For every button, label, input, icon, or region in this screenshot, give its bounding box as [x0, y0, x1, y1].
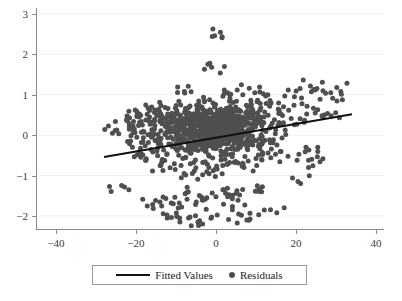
- legend-line-swatch-icon: [116, 274, 150, 276]
- y-axis-line: [36, 8, 37, 230]
- x-tick-mark: [296, 230, 297, 234]
- x-tick-label: −40: [36, 238, 76, 249]
- plot-area: [36, 8, 384, 230]
- y-tick-mark: [32, 14, 36, 15]
- y-tick-label: 3: [0, 9, 28, 20]
- y-tick-label: 1: [0, 90, 28, 101]
- caption-sliver: [0, 295, 402, 301]
- x-tick-label: 20: [276, 238, 316, 249]
- y-tick-mark: [32, 54, 36, 55]
- legend-dot-swatch-icon: [229, 272, 235, 278]
- scatter-plot-canvas: [36, 8, 384, 230]
- x-tick-label: 0: [196, 238, 236, 249]
- y-tick-mark: [32, 176, 36, 177]
- y-tick-label: 0: [0, 130, 28, 141]
- legend-label-residuals: Residuals: [240, 270, 283, 281]
- x-tick-mark: [136, 230, 137, 234]
- y-tick-mark: [32, 95, 36, 96]
- legend-entry-fitted-values: Fitted Values: [116, 270, 213, 281]
- legend-entry-residuals: Residuals: [229, 270, 283, 281]
- y-tick-label: −2: [0, 211, 28, 222]
- chart-page: −2−10123 −40−2002040 Fitted Values Resid…: [0, 0, 402, 301]
- x-tick-mark: [216, 230, 217, 234]
- x-tick-label: 40: [356, 238, 396, 249]
- chart-legend: Fitted Values Residuals: [92, 265, 307, 285]
- x-axis-line: [36, 229, 384, 230]
- x-tick-mark: [376, 230, 377, 234]
- y-tick-label: −1: [0, 171, 28, 182]
- y-tick-label: 2: [0, 49, 28, 60]
- y-tick-mark: [32, 216, 36, 217]
- legend-label-fitted-values: Fitted Values: [155, 270, 213, 281]
- y-tick-mark: [32, 135, 36, 136]
- x-tick-label: −20: [116, 238, 156, 249]
- x-tick-mark: [56, 230, 57, 234]
